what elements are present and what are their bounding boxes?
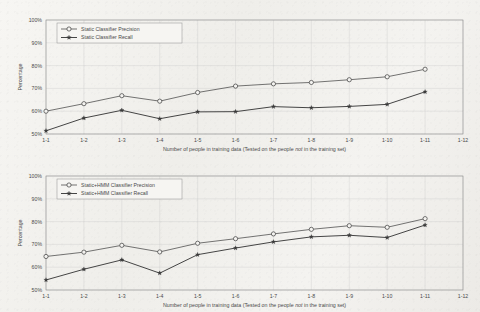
- chart-static-classifier-svg: 50%60%70%80%90%100%Percentage1-11-21-31-…: [0, 0, 480, 156]
- x-tick-label: 1-8: [308, 137, 316, 143]
- y-tick-label: 80%: [32, 219, 43, 225]
- data-point-marker: [347, 78, 351, 82]
- data-point-marker: [82, 250, 86, 254]
- x-tick-label: 1-7: [270, 137, 278, 143]
- x-axis-ticks: 1-11-21-31-41-51-61-71-81-91-101-111-12: [42, 137, 468, 143]
- legend-label: Static Classifier Recall: [81, 34, 133, 40]
- data-point-marker: [347, 224, 351, 228]
- x-axis-ticks: 1-11-21-31-41-51-61-71-81-91-101-111-12: [42, 293, 468, 299]
- y-axis-ticks: 50%60%70%80%90%100%: [29, 173, 43, 293]
- x-tick-label: 1-10: [382, 293, 392, 299]
- data-point-marker: [271, 82, 275, 86]
- x-tick-label: 1-9: [346, 137, 354, 143]
- data-point-marker: [423, 217, 427, 221]
- data-point-marker: [233, 237, 237, 241]
- y-tick-label: 50%: [32, 131, 43, 137]
- x-tick-label: 1-1: [42, 293, 50, 299]
- x-tick-label: 1-11: [420, 293, 430, 299]
- chart-static-hmm-classifier-svg: 50%60%70%80%90%100%Percentage1-11-21-31-…: [0, 156, 480, 312]
- x-tick-label: 1-1: [42, 137, 50, 143]
- x-tick-label: 1-6: [232, 293, 240, 299]
- y-tick-label: 90%: [32, 40, 43, 46]
- data-point-marker: [82, 102, 86, 106]
- data-point-marker: [233, 84, 237, 88]
- y-axis-label: Percentage: [17, 219, 23, 246]
- x-tick-label: 1-9: [346, 293, 354, 299]
- y-tick-label: 100%: [29, 17, 43, 23]
- x-axis-label: Number of people in training data (Teste…: [163, 302, 346, 308]
- legend: Static Classifier PrecisionStatic Classi…: [57, 23, 182, 43]
- x-tick-label: 1-10: [382, 137, 392, 143]
- legend: Static+HMM Classifier PrecisionStatic+HM…: [57, 179, 182, 199]
- data-point-marker: [120, 94, 124, 98]
- data-point-marker: [423, 67, 427, 71]
- data-point-marker: [158, 99, 162, 103]
- data-point-marker: [158, 250, 162, 254]
- legend-marker-circle: [67, 27, 71, 31]
- legend-label: Static Classifier Precision: [81, 26, 140, 32]
- y-axis-ticks: 50%60%70%80%90%100%: [29, 17, 43, 137]
- x-tick-label: 1-12: [458, 293, 468, 299]
- y-tick-label: 70%: [32, 85, 43, 91]
- data-point-marker: [120, 243, 124, 247]
- data-point-marker: [44, 254, 48, 258]
- x-tick-label: 1-3: [118, 293, 126, 299]
- data-point-marker: [44, 109, 48, 113]
- y-tick-label: 100%: [29, 173, 43, 179]
- y-tick-label: 80%: [32, 63, 43, 69]
- legend-label: Static+HMM Classifier Precision: [81, 182, 155, 188]
- data-point-marker: [271, 232, 275, 236]
- x-tick-label: 1-7: [270, 293, 278, 299]
- y-tick-label: 70%: [32, 241, 43, 247]
- x-tick-label: 1-4: [156, 137, 164, 143]
- x-tick-label: 1-5: [194, 293, 202, 299]
- data-point-marker: [309, 227, 313, 231]
- y-tick-label: 50%: [32, 287, 43, 293]
- y-axis-label: Percentage: [17, 63, 23, 90]
- x-tick-label: 1-2: [80, 137, 88, 143]
- x-tick-label: 1-6: [232, 137, 240, 143]
- x-tick-label: 1-2: [80, 293, 88, 299]
- data-point-marker: [196, 90, 200, 94]
- x-tick-label: 1-3: [118, 137, 126, 143]
- y-tick-label: 90%: [32, 196, 43, 202]
- x-tick-label: 1-12: [458, 137, 468, 143]
- y-tick-label: 60%: [32, 264, 43, 270]
- x-tick-label: 1-4: [156, 293, 164, 299]
- data-point-marker: [385, 75, 389, 79]
- legend-label: Static+HMM Classifier Recall: [81, 190, 148, 196]
- x-tick-label: 1-5: [194, 137, 202, 143]
- y-tick-label: 60%: [32, 108, 43, 114]
- chart-static-classifier: 50%60%70%80%90%100%Percentage1-11-21-31-…: [0, 0, 480, 156]
- data-point-marker: [385, 225, 389, 229]
- chart-static-hmm-classifier: 50%60%70%80%90%100%Percentage1-11-21-31-…: [0, 156, 480, 312]
- data-point-marker: [309, 80, 313, 84]
- legend-marker-circle: [67, 183, 71, 187]
- x-axis-label: Number of people in training data (Teste…: [163, 146, 346, 152]
- x-tick-label: 1-11: [420, 137, 430, 143]
- data-point-marker: [196, 241, 200, 245]
- x-tick-label: 1-8: [308, 293, 316, 299]
